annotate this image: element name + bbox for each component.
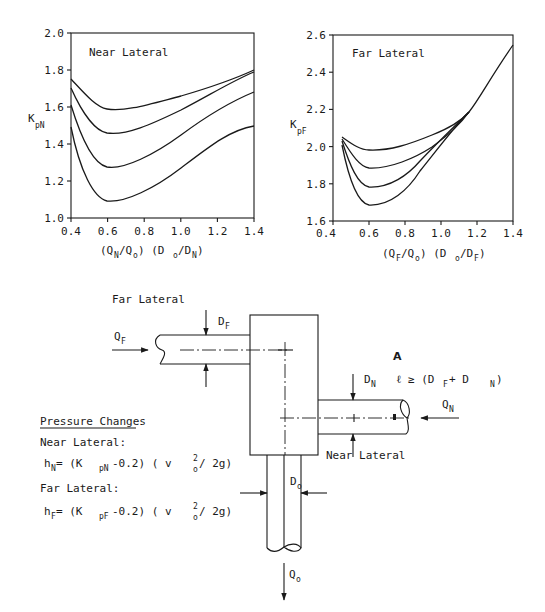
tick-label: 0.4 bbox=[61, 225, 81, 238]
do-label: D bbox=[290, 475, 297, 488]
pressure-changes-block: Pressure Changes Near Lateral: h N = (K … bbox=[40, 415, 232, 522]
far-curves bbox=[342, 45, 513, 205]
tick-label: 2.2 bbox=[306, 103, 326, 116]
tick-label: 0.8 bbox=[134, 225, 154, 238]
svg-text:+ D: + D bbox=[449, 373, 469, 386]
near-lateral-equation: h N = (K pN -0.2) ( v 2 o / 2g) bbox=[44, 454, 232, 474]
tick-label: 1.4 bbox=[44, 138, 64, 151]
svg-text:F: F bbox=[121, 337, 126, 346]
far-y-axis-label: K pF bbox=[290, 118, 307, 136]
svg-text:/ 2g): / 2g) bbox=[199, 457, 232, 470]
near-x-ticks bbox=[71, 218, 254, 222]
far-x-axis-label: (QF /Qo ) (Do /DF ) bbox=[382, 247, 486, 263]
svg-text:K: K bbox=[28, 112, 35, 125]
svg-text:o: o bbox=[296, 575, 301, 584]
svg-text:/ 2g): / 2g) bbox=[199, 505, 232, 518]
qf-label: Q bbox=[114, 330, 121, 343]
pipe-junction-diagram: Q F D F Far Lateral Q N D N Near Lateral… bbox=[112, 293, 503, 600]
near-curve-1 bbox=[71, 70, 254, 110]
tick-label: 1.2 bbox=[207, 225, 227, 238]
svg-text:-0.2) ( v: -0.2) ( v bbox=[112, 457, 172, 470]
far-curve-2 bbox=[342, 112, 469, 168]
svg-text:o: o bbox=[193, 465, 198, 474]
near-lateral-chart: 1.0 1.2 1.4 1.6 1.8 2.0 0.4 0.6 0.8 1.0 … bbox=[28, 27, 264, 260]
far-lateral-label: Far Lateral bbox=[112, 293, 185, 306]
far-chart-annotation: Far Lateral bbox=[352, 47, 425, 60]
svg-text:= (K: = (K bbox=[56, 457, 83, 470]
tick-label: 0.8 bbox=[395, 227, 415, 240]
svg-text:F: F bbox=[225, 322, 230, 331]
svg-text:o: o bbox=[193, 513, 198, 522]
svg-text:/D: /D bbox=[178, 244, 191, 257]
svg-text:2: 2 bbox=[193, 454, 198, 463]
near-lateral-eq-label: Near Lateral: bbox=[40, 436, 126, 449]
qn-label: Q bbox=[442, 398, 449, 411]
svg-text:2: 2 bbox=[193, 502, 198, 511]
tick-label: 2.0 bbox=[44, 27, 64, 40]
tick-label: 1.8 bbox=[44, 64, 64, 77]
near-y-axis-label: K pN bbox=[28, 112, 45, 130]
svg-text:o: o bbox=[297, 482, 302, 491]
near-y-ticks bbox=[67, 33, 71, 218]
tick-label: 0.6 bbox=[359, 227, 379, 240]
svg-text:N: N bbox=[371, 380, 376, 389]
svg-text:= (K: = (K bbox=[56, 505, 83, 518]
tick-label: 1.2 bbox=[467, 227, 487, 240]
spacing-formula: ℓ ≥ (D bbox=[396, 373, 434, 386]
svg-text:): ) bbox=[496, 373, 503, 386]
near-chart-annotation: Near Lateral bbox=[89, 46, 168, 59]
svg-text:-0.2) ( v: -0.2) ( v bbox=[112, 505, 172, 518]
far-curve-3 bbox=[342, 112, 469, 187]
svg-text:/Q: /Q bbox=[119, 244, 132, 257]
section-marker-a: A bbox=[393, 350, 402, 363]
tick-label: 0.4 bbox=[316, 227, 336, 240]
near-y-tick-labels: 1.0 1.2 1.4 1.6 1.8 2.0 bbox=[44, 27, 64, 225]
tick-label: 1.0 bbox=[44, 212, 64, 225]
far-pipe-break bbox=[156, 335, 165, 364]
tick-label: 2.0 bbox=[306, 141, 326, 154]
svg-text:K: K bbox=[290, 118, 297, 131]
far-lateral-eq-label: Far Lateral: bbox=[40, 482, 119, 495]
far-chart-frame bbox=[333, 35, 513, 221]
diagram-canvas: 1.0 1.2 1.4 1.6 1.8 2.0 0.4 0.6 0.8 1.0 … bbox=[0, 0, 545, 612]
near-lateral-label: Near Lateral bbox=[326, 449, 405, 462]
tick-label: 1.0 bbox=[171, 225, 191, 238]
tick-label: 1.6 bbox=[44, 101, 64, 114]
dn-label: D bbox=[364, 373, 371, 386]
tick-label: 0.6 bbox=[98, 225, 118, 238]
near-curves bbox=[71, 70, 254, 201]
svg-text:(Q: (Q bbox=[100, 244, 113, 257]
svg-text:N: N bbox=[490, 380, 495, 389]
svg-text:) (D: ) (D bbox=[138, 244, 165, 257]
far-curve-1 bbox=[342, 45, 513, 150]
far-y-tick-labels: 1.6 1.8 2.0 2.2 2.4 2.6 bbox=[306, 29, 326, 228]
spacing-marker bbox=[393, 414, 396, 420]
far-y-ticks bbox=[329, 35, 333, 221]
svg-text:h: h bbox=[44, 457, 51, 470]
svg-text:pF: pF bbox=[297, 127, 307, 136]
df-label: D bbox=[218, 315, 225, 328]
tick-label: 1.2 bbox=[44, 175, 64, 188]
svg-text:): ) bbox=[197, 244, 204, 257]
svg-text:F: F bbox=[443, 380, 448, 389]
svg-text:pF: pF bbox=[99, 512, 109, 521]
svg-text:h: h bbox=[44, 505, 51, 518]
tick-label: 2.4 bbox=[306, 66, 326, 79]
junction-box bbox=[250, 315, 318, 455]
svg-text:/D: /D bbox=[460, 247, 473, 260]
far-x-ticks bbox=[333, 221, 513, 225]
svg-text:pN: pN bbox=[35, 121, 45, 130]
svg-text:pN: pN bbox=[99, 464, 109, 473]
tick-label: 1.4 bbox=[244, 225, 264, 238]
tick-label: 1.8 bbox=[306, 178, 326, 191]
tick-label: 1.4 bbox=[503, 227, 523, 240]
near-chart-frame bbox=[71, 33, 254, 218]
tick-label: 1.0 bbox=[431, 227, 451, 240]
svg-text:) (D: ) (D bbox=[420, 247, 447, 260]
svg-text:): ) bbox=[479, 247, 486, 260]
far-x-tick-labels: 0.4 0.6 0.8 1.0 1.2 1.4 bbox=[316, 227, 523, 240]
qo-label: Q bbox=[289, 568, 296, 581]
near-x-tick-labels: 0.4 0.6 0.8 1.0 1.2 1.4 bbox=[61, 225, 264, 238]
svg-text:/Q: /Q bbox=[401, 247, 414, 260]
near-x-axis-label: (QN /Qo ) (Do /DN ) bbox=[100, 244, 204, 260]
